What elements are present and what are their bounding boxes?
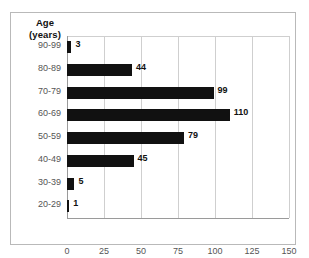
category-label-40-49: 40-49 (11, 154, 61, 164)
x-axis-line (67, 218, 289, 219)
category-label-20-29: 20-29 (11, 199, 61, 209)
bar-row: 99 (67, 82, 289, 105)
bar-row: 44 (67, 59, 289, 82)
bar-90-99 (67, 41, 71, 53)
bar-row: 45 (67, 150, 289, 173)
x-tick-label-0: 0 (52, 246, 82, 256)
bar-value-label: 99 (218, 85, 228, 95)
bar-row: 3 (67, 36, 289, 59)
y-axis-title-line2: (years) (17, 29, 73, 41)
bar-70-79 (67, 87, 214, 99)
bar-value-label: 5 (78, 176, 83, 186)
category-label-90-99: 90-99 (11, 40, 61, 50)
y-axis-title-line1: Age (17, 17, 73, 29)
category-label-60-69: 60-69 (11, 108, 61, 118)
bar-value-label: 45 (138, 153, 148, 163)
category-label-80-89: 80-89 (11, 63, 61, 73)
bar-row: 1 (67, 195, 289, 218)
bar-value-label: 110 (234, 107, 249, 117)
category-label-50-59: 50-59 (11, 131, 61, 141)
x-tick-label-25: 25 (89, 246, 119, 256)
x-tick-label-75: 75 (163, 246, 193, 256)
x-tick-label-150: 150 (274, 246, 304, 256)
bar-value-label: 1 (73, 198, 78, 208)
x-tick-label-50: 50 (126, 246, 156, 256)
category-label-70-79: 70-79 (11, 86, 61, 96)
bar-80-89 (67, 64, 132, 76)
bar-50-59 (67, 132, 184, 144)
bar-value-label: 3 (75, 39, 80, 49)
bar-value-label: 44 (136, 62, 146, 72)
bar-value-label: 79 (188, 130, 198, 140)
chart-frame: Age (years) 90-9980-8970-7960-6950-5940-… (10, 12, 296, 245)
bar-row: 5 (67, 173, 289, 196)
bar-20-29 (67, 200, 69, 212)
gridline-150 (289, 36, 290, 218)
plot-area: 34499110794551 0255075100125150 (67, 36, 289, 218)
bar-40-49 (67, 155, 134, 167)
bar-row: 110 (67, 104, 289, 127)
bar-60-69 (67, 109, 230, 121)
x-tick-label-125: 125 (237, 246, 267, 256)
bar-30-39 (67, 178, 74, 190)
category-label-30-39: 30-39 (11, 177, 61, 187)
bar-row: 79 (67, 127, 289, 150)
y-axis-title: Age (years) (17, 17, 73, 40)
x-tick-label-100: 100 (200, 246, 230, 256)
